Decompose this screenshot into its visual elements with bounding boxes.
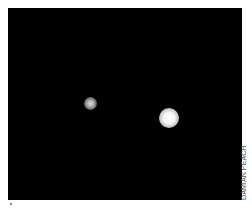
large-celestial-body bbox=[159, 108, 179, 128]
footer-mark bbox=[10, 203, 12, 205]
small-celestial-body bbox=[84, 97, 97, 110]
photo-credit: DAMIAN PEACH bbox=[239, 146, 249, 201]
astronomy-photo bbox=[8, 8, 242, 200]
